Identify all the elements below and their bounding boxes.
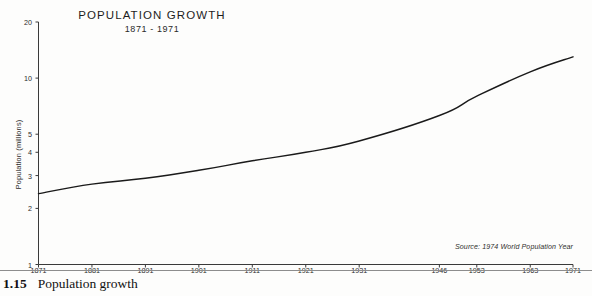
population-line-series: [39, 57, 574, 194]
figure-caption-number: 1.15: [3, 276, 27, 291]
caption-divider: [0, 270, 592, 271]
y-tick-label: 3: [8, 171, 32, 180]
source-note: Source: 1974 World Population Year: [455, 243, 573, 251]
figure-population-growth: POPULATION GROWTH 1871 - 1971 Population…: [0, 0, 592, 296]
y-tick-label: 10: [8, 74, 32, 83]
y-tick-label: 4: [8, 148, 32, 157]
y-tick-label: 1: [8, 260, 32, 269]
figure-caption: 1.15Population growth: [3, 276, 138, 292]
figure-caption-text: Population growth: [38, 276, 138, 291]
y-tick-label: 5: [8, 130, 32, 139]
chart-plot-area: [0, 0, 592, 278]
y-tick-label: 20: [8, 18, 32, 27]
y-tick-label: 2: [8, 204, 32, 213]
chart-axes: [39, 22, 574, 265]
